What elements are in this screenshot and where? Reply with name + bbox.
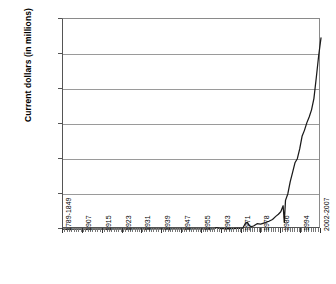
x-axis-minor-tick bbox=[92, 228, 93, 232]
x-axis-minor-tick bbox=[172, 228, 173, 232]
x-axis-minor-tick bbox=[198, 228, 199, 232]
x-axis-minor-tick bbox=[278, 228, 279, 232]
x-axis-minor-tick bbox=[135, 228, 136, 232]
x-axis-major-tick bbox=[102, 228, 103, 233]
x-axis-major-tick bbox=[221, 228, 222, 233]
x-axis-major-tick bbox=[141, 228, 142, 233]
x-axis-tick-label: 1971 bbox=[244, 215, 251, 231]
x-axis-minor-tick bbox=[132, 228, 133, 232]
x-axis-minor-tick bbox=[175, 228, 176, 232]
x-axis-major-tick bbox=[300, 228, 301, 233]
x-axis-minor-tick bbox=[217, 228, 218, 232]
x-axis-major-tick bbox=[201, 228, 202, 233]
x-axis-major-tick bbox=[62, 228, 63, 233]
x-axis-tick-label: 1963 bbox=[224, 215, 231, 231]
x-axis-minor-tick bbox=[116, 228, 117, 232]
x-axis-major-tick bbox=[260, 228, 261, 233]
x-axis-tick-label: 1978 bbox=[263, 215, 270, 231]
x-axis-tick-label: 1923 bbox=[125, 215, 132, 231]
x-axis-minor-tick bbox=[275, 228, 276, 232]
x-axis-minor-tick bbox=[76, 228, 77, 232]
x-axis-minor-tick bbox=[257, 228, 258, 232]
x-axis-minor-tick bbox=[74, 228, 75, 232]
x-axis-minor-tick bbox=[151, 228, 152, 232]
x-axis-minor-tick bbox=[158, 228, 159, 232]
x-axis-minor-tick bbox=[252, 228, 253, 232]
x-axis-minor-tick bbox=[212, 228, 213, 232]
x-axis-major-tick bbox=[181, 228, 182, 233]
series-path-current-dollars bbox=[63, 38, 321, 229]
x-axis-tick-label: 1955 bbox=[204, 215, 211, 231]
x-axis-minor-tick bbox=[191, 228, 192, 232]
x-axis-minor-tick bbox=[153, 228, 154, 232]
x-axis-minor-tick bbox=[297, 228, 298, 232]
x-axis-major-tick bbox=[122, 228, 123, 233]
x-axis-minor-tick bbox=[196, 228, 197, 232]
x-axis-tick-label: 1939 bbox=[164, 215, 171, 231]
x-axis-tick-label: 1907 bbox=[85, 215, 92, 231]
x-axis-minor-tick bbox=[231, 228, 232, 232]
x-axis-minor-tick bbox=[97, 228, 98, 232]
x-axis-tick-label: 1915 bbox=[105, 215, 112, 231]
x-axis-tick-label: 2002-2007 bbox=[323, 198, 330, 231]
x-axis-minor-tick bbox=[294, 228, 295, 232]
x-axis-minor-tick bbox=[238, 228, 239, 232]
x-axis-major-tick bbox=[320, 228, 321, 233]
x-axis-minor-tick bbox=[236, 228, 237, 232]
x-axis-minor-tick bbox=[177, 228, 178, 232]
x-axis-minor-tick bbox=[313, 228, 314, 232]
x-axis-major-tick bbox=[241, 228, 242, 233]
x-axis-minor-tick bbox=[273, 228, 274, 232]
x-axis-minor-tick bbox=[139, 228, 140, 232]
x-axis-minor-tick bbox=[193, 228, 194, 232]
x-axis-minor-tick bbox=[83, 228, 84, 232]
x-axis-minor-tick bbox=[78, 228, 79, 232]
x-axis-minor-tick bbox=[123, 228, 124, 232]
plot-area bbox=[62, 18, 320, 228]
x-axis-minor-tick bbox=[214, 228, 215, 232]
x-axis-minor-tick bbox=[114, 228, 115, 232]
x-axis-minor-tick bbox=[292, 228, 293, 232]
y-axis-title: Current dollars (in millions) bbox=[23, 0, 33, 145]
x-axis-tick-label: 1789-1849 bbox=[65, 198, 72, 231]
x-axis-minor-tick bbox=[318, 228, 319, 232]
x-axis-tick-label: 1931 bbox=[144, 215, 151, 231]
x-axis-minor-tick bbox=[118, 228, 119, 232]
x-axis-minor-tick bbox=[311, 228, 312, 232]
x-axis-major-tick bbox=[280, 228, 281, 233]
x-axis-minor-tick bbox=[233, 228, 234, 232]
x-axis-tick-label: 1947 bbox=[184, 215, 191, 231]
x-axis-minor-tick bbox=[271, 228, 272, 232]
x-axis-major-tick bbox=[161, 228, 162, 233]
x-axis-minor-tick bbox=[156, 228, 157, 232]
x-axis-minor-tick bbox=[100, 228, 101, 232]
x-axis-major-tick bbox=[82, 228, 83, 233]
x-axis-minor-tick bbox=[315, 228, 316, 232]
x-axis-tick-label: 1986 bbox=[283, 215, 290, 231]
chart-container: Current dollars (in millions) 3,000,0002… bbox=[0, 0, 336, 284]
x-axis-minor-tick bbox=[95, 228, 96, 232]
x-axis-minor-tick bbox=[137, 228, 138, 232]
x-axis-minor-tick bbox=[254, 228, 255, 232]
data-series-line bbox=[63, 19, 321, 229]
x-axis-tick-label: 1994 bbox=[303, 215, 310, 231]
